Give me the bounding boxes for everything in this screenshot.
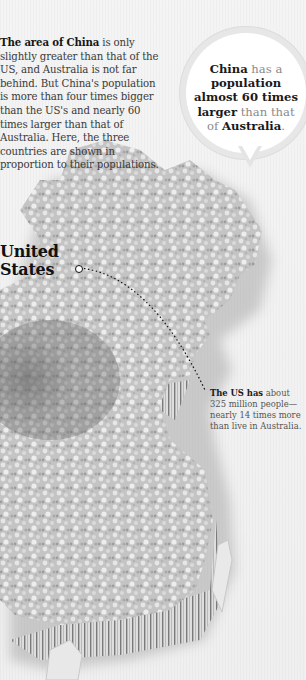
intro-paragraph: The area of China is only slightly great… bbox=[0, 36, 160, 172]
callout-bubble-tail-inner bbox=[242, 146, 258, 160]
us-label-line1: United bbox=[0, 243, 59, 261]
callout-bubble-text: China has a population almost 60 times l… bbox=[193, 62, 299, 133]
bubble-period: . bbox=[281, 119, 285, 133]
united-states-label: United States bbox=[0, 243, 59, 279]
us-label-line2: States bbox=[0, 261, 59, 279]
us-marker-icon bbox=[75, 265, 83, 273]
us-note-lead: The US has bbox=[210, 388, 263, 398]
bubble-australia: Australia bbox=[222, 119, 281, 133]
us-population-note: The US has about 325 million people—near… bbox=[210, 388, 306, 432]
intro-lead: The area of China bbox=[0, 36, 99, 48]
bubble-text-2: has a bbox=[248, 62, 283, 76]
intro-text: is only slightly greater than that of th… bbox=[0, 37, 159, 170]
bubble-china: China bbox=[210, 62, 248, 76]
